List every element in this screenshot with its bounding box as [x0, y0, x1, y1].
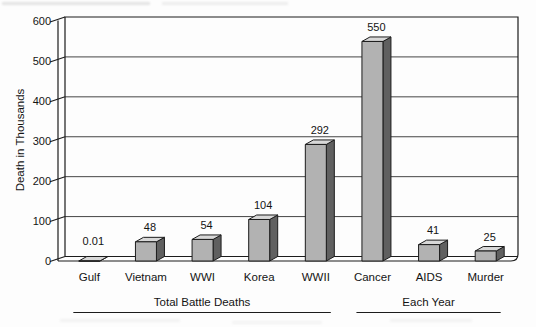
bar-front-cancer — [362, 41, 383, 261]
group-label-0: Total Battle Deaths — [154, 296, 251, 308]
chart-figure: 0100200300400500600Death in Thousands0.0… — [0, 0, 536, 327]
bar-side-cancer — [383, 37, 391, 261]
group-label-1: Each Year — [402, 296, 455, 308]
value-label-korea: 104 — [254, 199, 272, 211]
plot-frame — [58, 17, 518, 261]
category-label-korea: Korea — [244, 271, 275, 283]
bar-front-vietnam — [135, 242, 156, 261]
category-label-cancer: Cancer — [354, 271, 391, 283]
value-label-wwii: 292 — [311, 124, 329, 136]
category-label-gulf: Gulf — [79, 271, 101, 283]
y-tick-label-500: 500 — [33, 55, 51, 67]
category-label-aids: AIDS — [416, 271, 443, 283]
value-label-cancer: 550 — [367, 21, 385, 33]
y-tick-label-300: 300 — [33, 135, 51, 147]
bar-side-korea — [270, 215, 278, 261]
category-label-vietnam: Vietnam — [125, 271, 167, 283]
bar-front-murder — [475, 251, 496, 261]
value-label-vietnam: 48 — [144, 221, 156, 233]
category-label-murder: Murder — [467, 271, 504, 283]
bar-side-wwii — [326, 140, 334, 261]
bar-chart: 0100200300400500600Death in Thousands0.0… — [0, 0, 536, 327]
y-tick-label-0: 0 — [45, 255, 51, 267]
bar-front-aids — [419, 245, 440, 261]
y-axis-title: Death in Thousands — [14, 88, 26, 191]
category-label-wwii: WWII — [302, 271, 330, 283]
value-label-aids: 41 — [427, 224, 439, 236]
bar-top-gulf — [79, 256, 108, 261]
value-label-murder: 25 — [484, 231, 496, 243]
value-label-gulf: 0.01 — [83, 235, 104, 247]
y-tick-label-100: 100 — [33, 215, 51, 227]
y-tick-label-200: 200 — [33, 175, 51, 187]
bar-front-wwi — [192, 239, 213, 261]
bar-front-korea — [249, 219, 270, 261]
bar-front-wwii — [305, 144, 326, 261]
y-tick-label-400: 400 — [33, 95, 51, 107]
value-label-wwi: 54 — [200, 219, 212, 231]
category-label-wwi: WWI — [190, 271, 215, 283]
y-tick-label-600: 600 — [33, 15, 51, 27]
